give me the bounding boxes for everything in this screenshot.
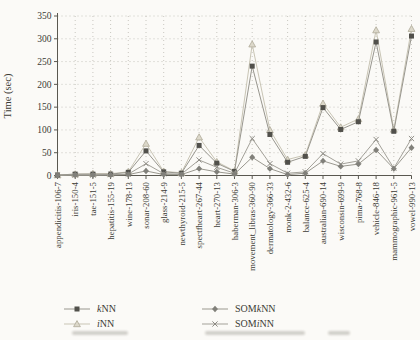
svg-text:250: 250 xyxy=(37,57,52,67)
chart-legend: kNN iNN SOMkNN SOMiNN xyxy=(62,301,276,331)
svg-text:150: 150 xyxy=(37,102,52,112)
axes xyxy=(54,13,412,179)
svg-text:mammographic-961-5: mammographic-961-5 xyxy=(389,181,399,260)
svg-text:hepatitis-155-19: hepatitis-155-19 xyxy=(106,181,116,239)
cropped-caption-remnant xyxy=(205,331,305,335)
legend-label-somknn: SOMkNN xyxy=(235,304,276,314)
legend-entry-somknn: SOMkNN xyxy=(200,304,276,314)
legend-entry-knn: kNN xyxy=(62,304,200,314)
somknn-diamond-marker-icon xyxy=(200,304,230,314)
gridlines xyxy=(58,16,412,176)
svg-text:australian-690-14: australian-690-14 xyxy=(318,181,328,244)
svg-text:wisconsin-699-9: wisconsin-699-9 xyxy=(336,181,346,240)
svg-text:heart-270-13: heart-270-13 xyxy=(212,181,222,227)
svg-text:spectfheart-267-44: spectfheart-267-44 xyxy=(194,181,204,248)
svg-text:pima-768-8: pima-768-8 xyxy=(354,181,364,223)
legend-label-knn: kNN xyxy=(97,304,116,314)
svg-text:sonar-208-60: sonar-208-60 xyxy=(141,181,151,228)
svg-text:200: 200 xyxy=(37,80,52,90)
y-axis-title: Time (sec) xyxy=(2,73,14,118)
svg-text:haberman-306-3: haberman-306-3 xyxy=(230,181,240,240)
svg-text:300: 300 xyxy=(37,34,52,44)
cropped-caption-remnant xyxy=(72,331,128,335)
svg-text:movement_libras-360-90: movement_libras-360-90 xyxy=(247,181,257,271)
svg-text:iris-150-4: iris-150-4 xyxy=(70,181,80,216)
axis-tick-labels: 050100150200250300350appendicitis-106-7i… xyxy=(37,11,416,271)
line-chart: 050100150200250300350appendicitis-106-7i… xyxy=(0,0,420,300)
svg-text:appendicitis-106-7: appendicitis-106-7 xyxy=(53,181,63,248)
knn-square-marker-icon xyxy=(62,304,92,314)
svg-text:glass-214-9: glass-214-9 xyxy=(159,181,169,223)
svg-text:50: 50 xyxy=(42,148,52,158)
cropped-caption-remnant xyxy=(328,331,350,335)
svg-text:balance-625-4: balance-625-4 xyxy=(301,181,311,232)
svg-text:0: 0 xyxy=(47,171,52,181)
svg-text:100: 100 xyxy=(37,125,52,135)
svg-text:wine-178-13: wine-178-13 xyxy=(124,181,134,227)
svg-text:monk-2-432-6: monk-2-432-6 xyxy=(283,181,293,232)
svg-text:350: 350 xyxy=(37,11,52,21)
legend-label-inn: iNN xyxy=(97,319,114,329)
svg-text:vowel-990-13: vowel-990-13 xyxy=(407,181,417,231)
svg-text:vehicle-846-18: vehicle-846-18 xyxy=(371,181,381,235)
sominn-x-marker-icon xyxy=(200,319,230,329)
legend-entry-sominn: SOMiNN xyxy=(200,319,276,329)
svg-text:newthyroid-215-5: newthyroid-215-5 xyxy=(177,181,187,245)
inn-triangle-marker-icon xyxy=(62,319,92,329)
svg-text:tae-151-5: tae-151-5 xyxy=(88,181,98,215)
svg-text:dermatology-366-33: dermatology-366-33 xyxy=(265,181,275,254)
legend-entry-inn: iNN xyxy=(62,319,200,329)
legend-label-sominn: SOMiNN xyxy=(235,319,274,329)
